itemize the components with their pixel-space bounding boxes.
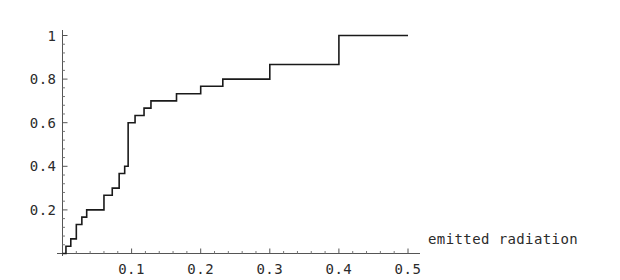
y-axis-tick-label: 0.8 bbox=[30, 71, 57, 87]
step-curve-line bbox=[63, 36, 409, 254]
axes-group bbox=[57, 30, 420, 256]
y-axis-tick-label: 0.6 bbox=[30, 115, 57, 131]
chart-figure: 0.20.40.60.81 0.10.20.30.40.5 emitted ra… bbox=[0, 0, 620, 280]
y-axis-tick-label: 0.2 bbox=[30, 202, 57, 218]
y-axis-tick-label: 1 bbox=[48, 28, 57, 44]
x-axis-tick-label: 0.2 bbox=[187, 261, 214, 277]
x-axis-tick-label: 0.3 bbox=[256, 261, 283, 277]
x-axis-tick-label: 0.1 bbox=[118, 261, 145, 277]
x-axis-tick-label: 0.4 bbox=[325, 261, 352, 277]
x-axis-tick-label: 0.5 bbox=[395, 261, 422, 277]
y-axis-tick-label: 0.4 bbox=[30, 158, 57, 174]
x-axis-title: emitted radiation bbox=[428, 231, 578, 247]
